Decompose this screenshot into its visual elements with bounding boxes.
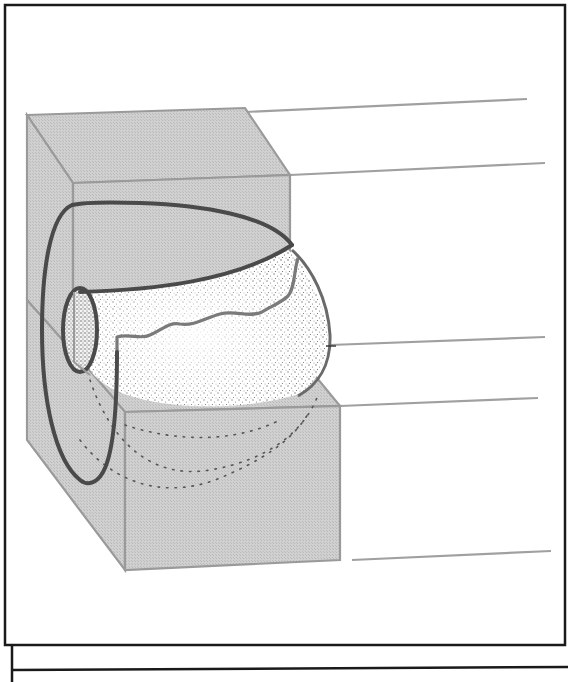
tube-end-opening xyxy=(63,288,97,372)
diagram-figure xyxy=(0,0,568,682)
caption-text: … … … … … … … … … … … … … … … … … … … … … xyxy=(12,673,568,682)
caption-clipped: … … … … … … … … … … … … … … … … … … … … … xyxy=(12,673,568,682)
